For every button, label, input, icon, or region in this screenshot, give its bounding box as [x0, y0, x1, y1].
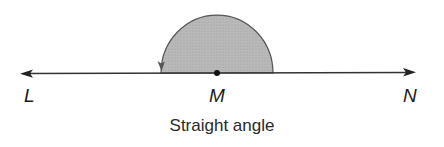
straight-angle-diagram: L M N Straight angle [0, 0, 444, 147]
diagram-caption: Straight angle [0, 116, 444, 136]
angle-region [161, 15, 273, 73]
point-label-l: L [24, 85, 35, 107]
point-label-m: M [209, 85, 225, 107]
point-label-n: N [403, 85, 417, 107]
vertex-point [214, 70, 220, 76]
